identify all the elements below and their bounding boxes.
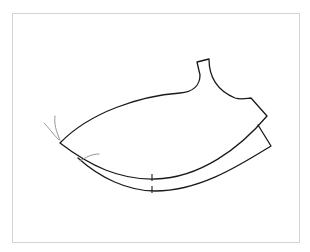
lower-band-outline (78, 125, 271, 191)
upper-cup-outline (60, 59, 267, 179)
pattern-diagram (0, 0, 310, 252)
thread-tail-bottom (80, 154, 99, 161)
